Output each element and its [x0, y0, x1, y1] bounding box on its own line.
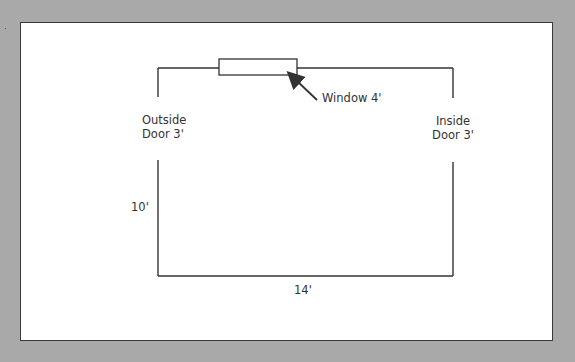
window-arrow	[297, 81, 317, 100]
window-symbol	[219, 59, 297, 75]
window-label: Window 4'	[322, 91, 381, 105]
outside-door-label: Outside Door 3'	[142, 113, 186, 141]
inside-door-label-line2: Door 3'	[430, 128, 476, 142]
bottom-dimension-label: 14'	[294, 283, 312, 297]
room-plan	[0, 0, 575, 362]
outside-door-label-line2: Door 3'	[142, 127, 186, 141]
side-dimension-label: 10'	[131, 200, 149, 214]
outside-door-label-line1: Outside	[142, 113, 186, 127]
inside-door-label-line1: Inside	[430, 114, 476, 128]
inside-door-label: Inside Door 3'	[430, 114, 476, 142]
